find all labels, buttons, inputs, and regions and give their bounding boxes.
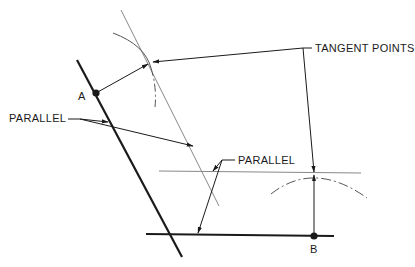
tangent-points-label: TANGENT POINTS bbox=[315, 42, 415, 54]
parallel-left-label: PARALLEL bbox=[9, 112, 66, 124]
tangent-leader-upper bbox=[153, 48, 303, 62]
point-a-label: A bbox=[78, 90, 86, 102]
line-through-b bbox=[146, 234, 334, 236]
parallel-tangent-line-lower bbox=[159, 171, 361, 173]
lower-arc bbox=[271, 178, 367, 198]
tangent-leader-lower bbox=[303, 48, 314, 172]
parallel-right-label: PARALLEL bbox=[238, 154, 295, 166]
parallel-left-arrow-2 bbox=[80, 119, 193, 146]
tangent-construction-diagram: A TANGENT POINTS B PARALLEL PARALLEL bbox=[0, 0, 415, 267]
point-b-label: B bbox=[310, 243, 318, 255]
parallel-tangent-line-upper bbox=[121, 10, 219, 206]
upper-arc bbox=[113, 33, 151, 68]
radius-arrow-a bbox=[96, 64, 148, 93]
line-through-a bbox=[77, 60, 182, 257]
